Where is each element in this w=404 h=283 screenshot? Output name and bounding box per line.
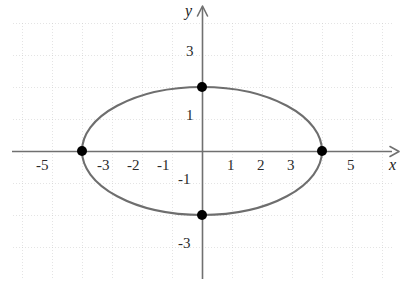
x-tick-label-neg3: -3 <box>97 158 110 173</box>
coordinate-plane-svg <box>0 0 404 283</box>
covertex-point-bottom <box>197 210 207 220</box>
x-axis-label: x <box>389 157 396 173</box>
y-tick-label-3: 3 <box>186 44 194 59</box>
ellipse-graph-figure: -5 -3 -2 -1 1 2 3 5 3 1 -1 -3 y x <box>0 0 404 283</box>
x-tick-label-1: 1 <box>227 158 235 173</box>
x-tick-label-neg1: -1 <box>157 158 170 173</box>
vertex-point-right <box>317 146 327 156</box>
y-tick-label-neg1: -1 <box>178 172 191 187</box>
y-tick-label-neg3: -3 <box>178 236 191 251</box>
x-tick-label-neg5: -5 <box>36 158 49 173</box>
vertex-point-left <box>77 146 87 156</box>
x-tick-label-5: 5 <box>347 158 355 173</box>
x-tick-label-2: 2 <box>257 158 265 173</box>
x-tick-label-3: 3 <box>287 158 295 173</box>
x-tick-label-neg2: -2 <box>127 158 140 173</box>
y-axis-label: y <box>185 3 192 19</box>
covertex-point-top <box>197 82 207 92</box>
y-tick-label-1: 1 <box>186 108 194 123</box>
